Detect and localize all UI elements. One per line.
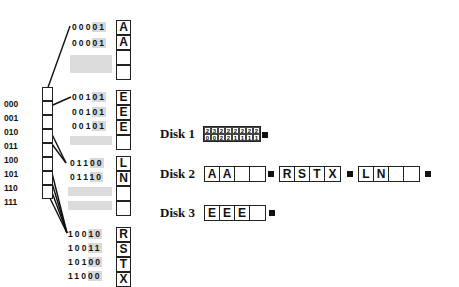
block-slot: E (235, 206, 250, 220)
record-bits: 11000 (68, 271, 102, 282)
dir-label-001: 001 (4, 112, 34, 124)
dir-pointer: 1 (253, 134, 260, 141)
dir-pointer: 1 (246, 134, 253, 141)
dir-depth: 2 (253, 127, 260, 134)
end-marker (268, 171, 274, 177)
block-slot (250, 167, 265, 181)
dir-pointer: 2 (225, 134, 232, 141)
record-bits: 10010 (68, 229, 102, 240)
block-slot: T (310, 167, 325, 181)
record-bits: 00001 (72, 22, 106, 33)
empty-slot (70, 64, 112, 73)
record-bits: 10011 (68, 243, 102, 254)
disk-label: Disk 1 (160, 126, 195, 142)
dir-label-010: 010 (4, 126, 34, 138)
bucket-slot (116, 135, 131, 150)
bucket-slot (116, 186, 131, 201)
bucket-slot: E (116, 90, 131, 105)
dir-pointer: 1 (239, 134, 246, 141)
disk-directory-grid: 2 3 2 2 2 2 2 2 0 0 2 2 1 1 1 1 (203, 126, 261, 142)
bucket-slot: T (116, 257, 131, 272)
dir-depth: 2 (204, 127, 211, 134)
bucket-slot: A (116, 20, 131, 35)
empty-slot (68, 201, 112, 210)
bucket-slot: S (116, 242, 131, 257)
block-slot: N (374, 167, 389, 181)
block-slot: A (220, 167, 235, 181)
block-slot: X (325, 167, 340, 181)
block-slot: L (359, 167, 374, 181)
end-marker (262, 132, 268, 138)
dir-cell-111 (42, 185, 53, 199)
record-bits: 00001 (72, 38, 106, 49)
empty-slot (68, 187, 112, 196)
disk-block: A A (204, 166, 266, 182)
disk-label: Disk 3 (160, 205, 195, 221)
block-slot (250, 206, 265, 220)
block-slot (389, 167, 404, 181)
block-slot: E (205, 206, 220, 220)
bucket-slot: A (116, 35, 131, 50)
dir-cell-000 (42, 87, 53, 101)
record-bits: 00101 (72, 107, 106, 118)
disk-label: Disk 2 (160, 166, 195, 182)
bucket-slot: E (116, 105, 131, 120)
dir-pointer: 0 (204, 134, 211, 141)
empty-slot (70, 55, 112, 64)
dir-label-100: 100 (4, 154, 34, 166)
dir-pointer: 1 (232, 134, 239, 141)
dir-depth: 2 (232, 127, 239, 134)
dir-pointer: 0 (211, 134, 218, 141)
dir-depth: 2 (225, 127, 232, 134)
bucket-slot: N (116, 171, 131, 186)
record-bits: 01110 (70, 172, 103, 183)
dir-pointer: 2 (218, 134, 225, 141)
dir-cell-001 (42, 101, 53, 115)
block-slot: E (220, 206, 235, 220)
block-slot (404, 167, 419, 181)
dir-label-000: 000 (4, 98, 34, 110)
block-slot: A (205, 167, 220, 181)
disk-block: R S T X (279, 166, 341, 182)
empty-slot (70, 136, 112, 145)
bucket-slot: X (116, 272, 131, 287)
disk-block: E E E (204, 205, 266, 221)
end-marker (347, 171, 353, 177)
dir-depth: 2 (246, 127, 253, 134)
bucket-slot: E (116, 120, 131, 135)
record-bits: 00101 (72, 121, 106, 132)
dir-depth: 2 (239, 127, 246, 134)
disk-block: L N (358, 166, 420, 182)
block-slot: S (295, 167, 310, 181)
end-marker (269, 210, 275, 216)
dir-label-111: 111 (4, 196, 34, 208)
dir-label-110: 110 (4, 182, 34, 194)
end-marker (425, 171, 431, 177)
record-bits: 10100 (68, 257, 102, 268)
bucket-slot: L (116, 156, 131, 171)
record-bits: 00101 (72, 92, 106, 103)
dir-cell-100 (42, 143, 53, 157)
record-bits: 01100 (70, 158, 104, 169)
dir-label-011: 011 (4, 140, 34, 152)
dir-depth: 2 (218, 127, 225, 134)
dir-cell-011 (42, 129, 53, 143)
dir-depth: 3 (211, 127, 218, 134)
block-slot (235, 167, 250, 181)
block-slot: R (280, 167, 295, 181)
bucket-slot (116, 201, 131, 216)
bucket-slot (116, 65, 131, 80)
dir-cell-110 (42, 171, 53, 185)
dir-cell-101 (42, 157, 53, 171)
dir-cell-010 (42, 115, 53, 129)
bucket-slot (116, 50, 131, 65)
bucket-slot: R (116, 227, 131, 242)
dir-label-101: 101 (4, 168, 34, 180)
